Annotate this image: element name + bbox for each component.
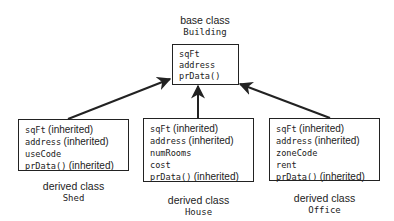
base-class-name: Building <box>150 26 260 38</box>
member-row: zoneCode <box>276 147 373 159</box>
member-row: address (inherited) <box>25 136 122 148</box>
derived-class-box-house: sqFt (inherited) address (inherited) num… <box>143 118 254 182</box>
member-row: sqFt (inherited) <box>25 124 122 136</box>
arrow-shed-to-building <box>68 79 170 119</box>
member-row: numRooms <box>150 147 247 159</box>
member-row: prData() <box>179 71 232 82</box>
derived-class-caption-shed: derived class Shed <box>18 180 129 204</box>
member-row: sqFt (inherited) <box>150 123 247 135</box>
derived-class-name-house: House <box>143 206 254 218</box>
member-row: prData() (inherited) <box>276 171 373 183</box>
derived-class-caption-office: derived class Office <box>269 192 380 216</box>
arrow-office-to-building <box>240 84 330 118</box>
member-row: cost <box>150 159 247 171</box>
base-class-caption: base class Building <box>150 14 260 38</box>
member-row: prData() (inherited) <box>150 171 247 183</box>
member-row: address <box>179 60 232 71</box>
member-row: sqFt (inherited) <box>276 123 373 135</box>
derived-class-caption-house: derived class House <box>143 194 254 218</box>
derived-class-box-office: sqFt (inherited) address (inherited) zon… <box>269 118 380 181</box>
member-row: rent <box>276 159 373 171</box>
member-row: address (inherited) <box>150 135 247 147</box>
base-class-caption-text: base class <box>180 14 230 26</box>
derived-class-name-office: Office <box>269 204 380 216</box>
member-row: sqFt <box>179 49 232 60</box>
derived-class-name-shed: Shed <box>18 192 129 204</box>
derived-class-box-shed: sqFt (inherited) address (inherited) use… <box>18 119 129 171</box>
member-row: useCode <box>25 148 122 160</box>
member-row: prData() (inherited) <box>25 160 122 172</box>
member-row: address (inherited) <box>276 135 373 147</box>
base-class-box: sqFt address prData() <box>172 44 239 85</box>
